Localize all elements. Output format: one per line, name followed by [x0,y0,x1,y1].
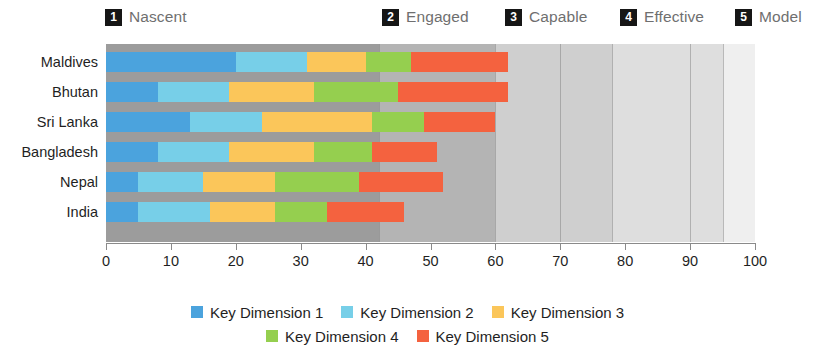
x-axis-tick [755,243,756,250]
bar-segment [359,172,443,192]
x-axis-tick-label: 10 [163,253,179,269]
bar-segment [372,142,437,162]
y-axis-label: India [0,204,98,220]
band-name-3: Capable [529,8,587,26]
bar-segment [210,202,275,222]
chart-legend: Key Dimension 1Key Dimension 2Key Dimens… [0,300,815,348]
x-axis-tick-label: 0 [102,253,110,269]
legend-label: Key Dimension 4 [285,328,398,345]
y-axis-label: Bhutan [0,84,98,100]
bar-segment [158,142,229,162]
band-name-2: Engaged [406,8,469,26]
bar-segment [327,202,405,222]
band-label-2: 2 Engaged [382,8,469,26]
y-axis-label: Bangladesh [0,144,98,160]
x-axis-tick-label: 90 [682,253,698,269]
band-name-1: Nascent [129,8,187,26]
x-axis-tick-label: 30 [293,253,309,269]
bar-row [106,202,404,222]
bar-segment [229,82,313,102]
bar-segment [203,172,274,192]
x-axis-tick [431,243,432,250]
band-badge-2: 2 [382,9,399,26]
legend-label: Key Dimension 2 [360,304,473,321]
legend-item[interactable]: Key Dimension 5 [417,328,549,345]
legend-row-2: Key Dimension 4Key Dimension 5 [0,324,815,348]
x-axis-tick-label: 40 [358,253,374,269]
bar-row [106,52,508,72]
bar-segment [366,52,411,72]
y-axis-label: Sri Lanka [0,114,98,130]
y-axis-label: Maldives [0,54,98,70]
band-name-5: Model [759,8,802,26]
bar-segment [138,202,209,222]
y-axis-labels: MaldivesBhutanSri LankaBangladeshNepalIn… [0,44,98,242]
legend-item[interactable]: Key Dimension 1 [191,304,323,321]
x-axis-tick [690,243,691,250]
bar-segment [190,112,261,132]
legend-item[interactable]: Key Dimension 2 [341,304,473,321]
band-label-5: 5 Model [735,8,802,26]
bar-segment [307,52,365,72]
bar-row [106,112,495,132]
bar-row [106,82,508,102]
band-label-3: 3 Capable [505,8,587,26]
legend-label: Key Dimension 3 [511,304,624,321]
legend-swatch-icon [492,306,504,318]
bar-segment [106,52,236,72]
y-axis-label: Nepal [0,174,98,190]
x-axis-tick-label: 60 [487,253,503,269]
bar-segment [106,172,138,192]
legend-label: Key Dimension 1 [210,304,323,321]
bar-row [106,142,437,162]
bar-segment [106,202,138,222]
bar-segment [411,52,508,72]
bar-segment [106,142,158,162]
legend-swatch-icon [341,306,353,318]
bar-row [106,172,443,192]
band-badge-3: 3 [505,9,522,26]
band-label-4: 4 Effective [620,8,704,26]
legend-row-1: Key Dimension 1Key Dimension 2Key Dimens… [0,300,815,324]
x-axis-tick [495,243,496,250]
bar-segment [314,82,398,102]
legend-swatch-icon [266,330,278,342]
bar-segment [229,142,313,162]
bar-segment [275,202,327,222]
bar-segment [236,52,307,72]
x-axis-tick [625,243,626,250]
bar-segment [398,82,508,102]
x-axis-tick-label: 80 [617,253,633,269]
band-name-4: Effective [644,8,704,26]
bar-segment [138,172,203,192]
band-header: 1 Nascent 2 Engaged 3 Capable 4 Effectiv… [0,8,815,34]
x-axis-tick [171,243,172,250]
band-badge-4: 4 [620,9,637,26]
band-badge-1: 1 [105,9,122,26]
bar-segment [424,112,495,132]
x-axis-tick [106,243,107,250]
legend-item[interactable]: Key Dimension 4 [266,328,398,345]
bar-segment [275,172,359,192]
x-axis-tick-label: 100 [743,253,767,269]
legend-item[interactable]: Key Dimension 3 [492,304,624,321]
band-badge-5: 5 [735,9,752,26]
legend-label: Key Dimension 5 [436,328,549,345]
x-axis-tick-label: 70 [552,253,568,269]
bar-segment [314,142,372,162]
x-axis-tick [366,243,367,250]
x-axis-tick [236,243,237,250]
band-label-1: 1 Nascent [105,8,187,26]
plot-area [106,44,755,242]
legend-swatch-icon [191,306,203,318]
x-axis-tick [301,243,302,250]
bar-segment [106,82,158,102]
x-axis-tick-label: 20 [228,253,244,269]
bar-segment [262,112,372,132]
x-axis-tick-label: 50 [422,253,438,269]
bar-segment [106,112,190,132]
bar-rows [106,44,755,242]
bar-segment [158,82,229,102]
stacked-bar-chart: 1 Nascent 2 Engaged 3 Capable 4 Effectiv… [0,0,815,355]
x-axis-tick [560,243,561,250]
